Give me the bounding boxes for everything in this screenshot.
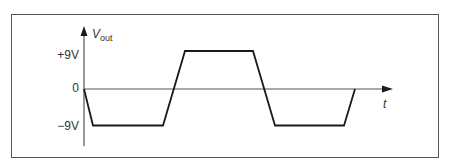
- y-axis-label: Vout: [92, 27, 113, 43]
- tick-label-pos: +9V: [57, 48, 79, 62]
- tick-label-neg: −9V: [57, 119, 79, 133]
- waveform-diagram: Vout +9V 0 −9V t: [0, 0, 449, 163]
- tick-label-zero: 0: [72, 81, 79, 95]
- y-axis-arrow-icon: [81, 26, 88, 36]
- x-axis-label: t: [383, 97, 387, 111]
- t-axis-arrow-icon: [382, 86, 393, 93]
- vout-waveform: [84, 51, 355, 126]
